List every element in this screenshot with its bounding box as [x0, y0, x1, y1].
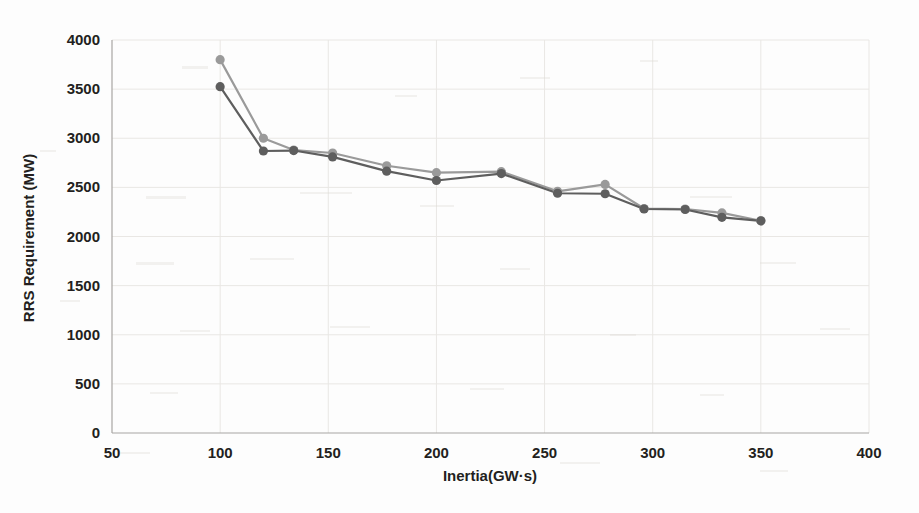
y-tick-label-500: 500	[75, 375, 100, 392]
y-tick-label-3500: 3500	[67, 80, 100, 97]
data-point-series-upper-100	[216, 55, 225, 64]
x-tick-label-350: 350	[748, 444, 773, 461]
x-tick-label-200: 200	[424, 444, 449, 461]
x-tick-label-100: 100	[208, 444, 233, 461]
data-point-series-lower-100	[216, 82, 225, 91]
x-tick-label-50: 50	[104, 444, 121, 461]
data-point-series-upper-278	[601, 180, 610, 189]
x-axis-title: Inertia(GW·s)	[443, 467, 537, 484]
rrs-requirement-vs-inertia-line-chart: 05001000150020002500300035004000 5010015…	[0, 0, 919, 513]
y-tick-label-2500: 2500	[67, 178, 100, 195]
chart-background	[0, 0, 919, 513]
y-tick-label-1000: 1000	[67, 326, 100, 343]
y-tick-label-0: 0	[92, 424, 100, 441]
data-point-series-upper-120	[259, 134, 268, 143]
data-point-series-lower-134	[289, 146, 298, 155]
data-point-series-lower-296	[639, 204, 648, 213]
y-tick-label-2000: 2000	[67, 228, 100, 245]
x-tick-label-300: 300	[640, 444, 665, 461]
data-point-series-lower-332	[717, 213, 726, 222]
data-point-series-lower-350	[756, 216, 765, 225]
data-point-series-lower-315	[681, 205, 690, 214]
y-tick-label-4000: 4000	[67, 31, 100, 48]
data-point-series-lower-278	[601, 189, 610, 198]
data-point-series-lower-256	[553, 189, 562, 198]
y-tick-label-1500: 1500	[67, 277, 100, 294]
data-point-series-lower-177	[382, 167, 391, 176]
y-tick-label-3000: 3000	[67, 129, 100, 146]
chart-figure: 05001000150020002500300035004000 5010015…	[0, 0, 919, 513]
x-tick-label-250: 250	[532, 444, 557, 461]
y-axis-title: RRS Requirement (MW)	[20, 154, 37, 322]
data-point-series-lower-152	[328, 152, 337, 161]
data-point-series-upper-200	[432, 168, 441, 177]
data-point-series-lower-200	[432, 176, 441, 185]
data-point-series-lower-230	[497, 169, 506, 178]
x-tick-label-150: 150	[316, 444, 341, 461]
x-tick-label-400: 400	[856, 444, 881, 461]
data-point-series-lower-120	[259, 146, 268, 155]
